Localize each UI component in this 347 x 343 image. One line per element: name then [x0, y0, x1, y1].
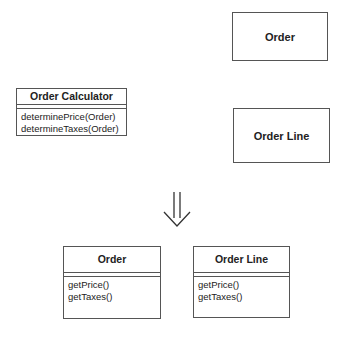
- order-box: Order: [232, 12, 328, 61]
- class-name: Order: [265, 31, 295, 43]
- method: getTaxes(): [198, 291, 285, 303]
- class-name: Order Line: [194, 247, 289, 273]
- methods-compartment: determinePrice(Order) determineTaxes(Ord…: [17, 109, 126, 137]
- methods-compartment: getPrice() getTaxes(): [194, 277, 289, 305]
- method: determineTaxes(Order): [21, 123, 122, 135]
- order-class: Order getPrice() getTaxes(): [63, 246, 161, 319]
- order-calculator-class: Order Calculator determinePrice(Order) d…: [16, 88, 127, 136]
- method: getTaxes(): [68, 291, 156, 303]
- methods-compartment: getPrice() getTaxes(): [64, 277, 160, 305]
- method: getPrice(): [198, 279, 285, 291]
- method: determinePrice(Order): [21, 111, 122, 123]
- method: getPrice(): [68, 279, 156, 291]
- class-name: Order Line: [254, 130, 310, 142]
- double-down-arrow-icon: [160, 192, 194, 232]
- class-name: Order: [64, 247, 160, 273]
- class-name: Order Calculator: [17, 89, 126, 105]
- order-line-class: Order Line getPrice() getTaxes(): [193, 246, 290, 318]
- order-line-box: Order Line: [233, 108, 330, 163]
